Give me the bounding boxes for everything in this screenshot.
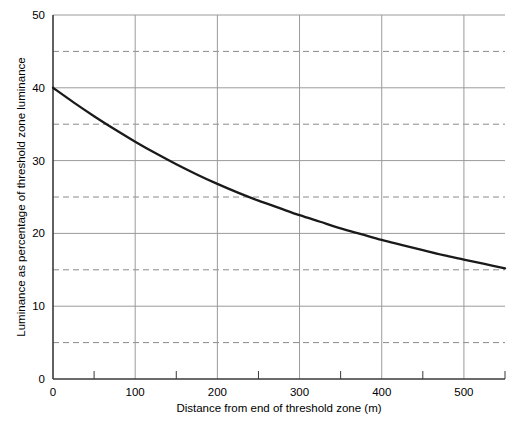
x-tick-label-500: 500 [454,386,473,398]
y-tick-label-50: 50 [32,9,45,21]
y-tick-label-30: 30 [32,155,45,167]
y-tick-label-10: 10 [32,300,45,312]
x-tick-label-200: 200 [208,386,227,398]
x-tick-label-100: 100 [126,386,145,398]
y-tick-label-0: 0 [39,373,45,385]
x-tick-label-300: 300 [290,386,309,398]
y-tick-label-20: 20 [32,227,45,239]
x-axis-title: Distance from end of threshold zone (m) [176,402,381,414]
x-tick-label-0: 0 [50,386,56,398]
x-tick-label-400: 400 [372,386,391,398]
y-axis-title: Luminance as percentage of threshold zon… [15,57,27,336]
y-tick-label-40: 40 [32,82,45,94]
luminance-decay-line-chart: 01020304050 0100200300400500 Distance fr… [0,0,524,429]
chart-container: 01020304050 0100200300400500 Distance fr… [0,0,524,429]
